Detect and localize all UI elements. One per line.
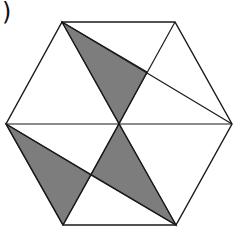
segment-L-BR [6,124,176,225]
line-segments [6,22,232,225]
shaded-triangle-2 [6,124,91,225]
shaded-triangle-3 [91,124,176,225]
segment-TL-R [62,22,232,124]
hexagon-diagram [0,0,236,227]
shaded-triangle-1 [62,22,147,124]
